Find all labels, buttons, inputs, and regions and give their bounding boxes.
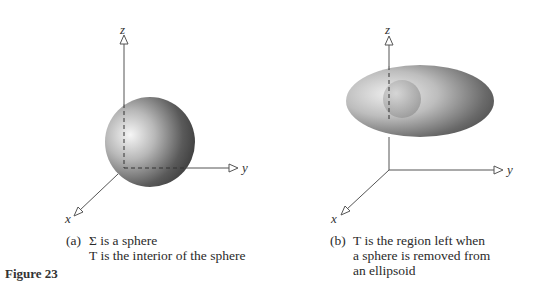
- y-axis-label: y: [505, 162, 513, 177]
- z-axis-label: z: [384, 22, 390, 37]
- z-axis-arrow-icon: [385, 36, 393, 45]
- sphere: [105, 97, 195, 187]
- y-axis-label: y: [240, 160, 248, 175]
- y-axis-arrow-icon: [229, 164, 238, 172]
- caption-b-line-3: an ellipsoid: [353, 263, 490, 278]
- caption-b-tag: (b): [330, 233, 346, 248]
- panel-b-diagram: z y x: [330, 22, 513, 226]
- caption-b-line-1: T is the region left when: [353, 233, 490, 248]
- caption-b-line-2: a sphere is removed from: [353, 248, 490, 263]
- panel-a-diagram: z y x: [64, 22, 248, 226]
- caption-a-line-2: T is the interior of the sphere: [89, 248, 245, 263]
- figure-label: Figure 23: [5, 266, 58, 282]
- x-axis: [346, 170, 389, 210]
- x-axis: [79, 174, 118, 211]
- z-axis-label: z: [119, 22, 125, 37]
- x-axis-label: x: [330, 211, 337, 226]
- inner-sphere-cavity: [383, 80, 421, 118]
- caption-a-tag: (a): [66, 233, 81, 248]
- y-axis-arrow-icon: [494, 166, 503, 174]
- x-axis-label: x: [64, 211, 71, 226]
- caption-a-line-1: Σ is a sphere: [89, 233, 245, 248]
